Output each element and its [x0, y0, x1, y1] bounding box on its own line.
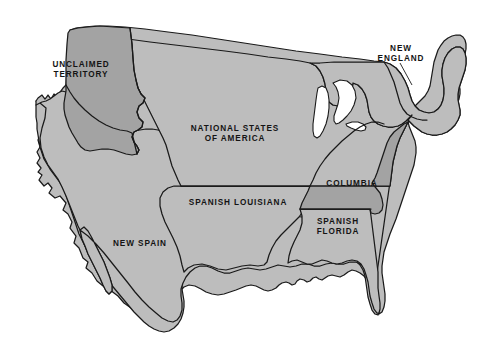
- region-spanish-florida[interactable]: [288, 209, 380, 313]
- historical-map: UNCLAIMED TERRITORY NATIONAL STATES OF A…: [0, 0, 492, 355]
- map-canvas: [0, 0, 492, 355]
